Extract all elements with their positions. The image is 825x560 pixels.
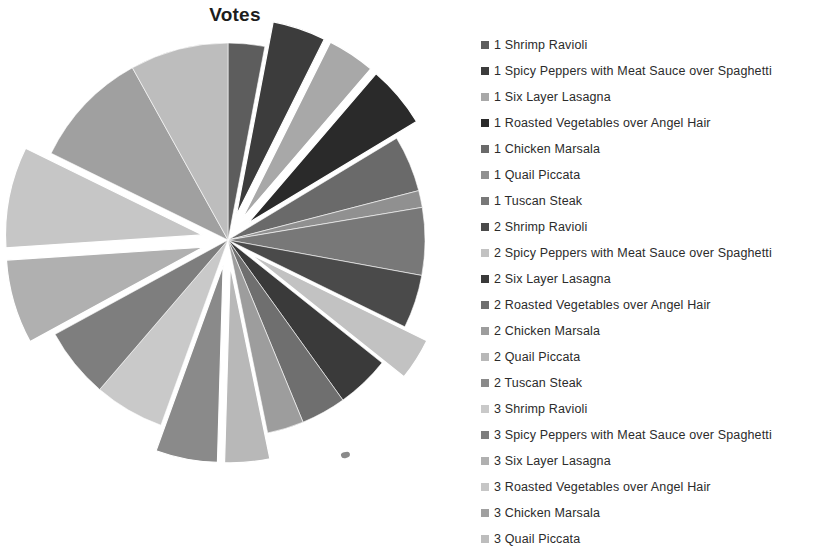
legend-item-label: 2 Tuscan Steak	[494, 370, 582, 396]
legend-swatch-icon	[481, 93, 489, 101]
legend-item[interactable]: 2 Quail Piccata	[481, 344, 825, 370]
legend-item-label: 3 Spicy Peppers with Meat Sauce over Spa…	[494, 422, 772, 448]
legend-swatch-icon	[481, 171, 489, 179]
legend-item[interactable]: 1 Tuscan Steak	[481, 188, 825, 214]
legend-item-label: 1 Six Layer Lasagna	[494, 84, 611, 110]
legend-swatch-icon	[481, 67, 489, 75]
legend-item-label: 1 Tuscan Steak	[494, 188, 582, 214]
legend-item[interactable]: 2 Tuscan Steak	[481, 370, 825, 396]
legend-item[interactable]: 1 Quail Piccata	[481, 162, 825, 188]
pie-slice-group	[5, 22, 426, 463]
chart-legend: 1 Shrimp Ravioli1 Spicy Peppers with Mea…	[481, 32, 825, 552]
legend-item-label: 2 Roasted Vegetables over Angel Hair	[494, 292, 711, 318]
legend-swatch-icon	[481, 353, 489, 361]
legend-item-label: 2 Shrimp Ravioli	[494, 214, 587, 240]
legend-swatch-icon	[481, 535, 489, 543]
legend-item-label: 3 Chicken Marsala	[494, 500, 600, 526]
legend-item-label: 1 Roasted Vegetables over Angel Hair	[494, 110, 711, 136]
legend-item-label: 1 Spicy Peppers with Meat Sauce over Spa…	[494, 58, 772, 84]
legend-item[interactable]: 3 Quail Piccata	[481, 526, 825, 552]
legend-item[interactable]: 3 Chicken Marsala	[481, 500, 825, 526]
legend-item[interactable]: 3 Roasted Vegetables over Angel Hair	[481, 474, 825, 500]
legend-item[interactable]: 2 Chicken Marsala	[481, 318, 825, 344]
legend-swatch-icon	[481, 41, 489, 49]
legend-item-label: 1 Chicken Marsala	[494, 136, 600, 162]
legend-item[interactable]: 3 Spicy Peppers with Meat Sauce over Spa…	[481, 422, 825, 448]
legend-item-label: 3 Six Layer Lasagna	[494, 448, 611, 474]
legend-item[interactable]: 1 Chicken Marsala	[481, 136, 825, 162]
legend-swatch-icon	[481, 483, 489, 491]
legend-item-label: 3 Shrimp Ravioli	[494, 396, 587, 422]
legend-item-label: 2 Chicken Marsala	[494, 318, 600, 344]
legend-item-label: 1 Shrimp Ravioli	[494, 32, 587, 58]
legend-item[interactable]: 1 Spicy Peppers with Meat Sauce over Spa…	[481, 58, 825, 84]
legend-item[interactable]: 2 Shrimp Ravioli	[481, 214, 825, 240]
legend-item[interactable]: 2 Roasted Vegetables over Angel Hair	[481, 292, 825, 318]
legend-swatch-icon	[481, 379, 489, 387]
legend-item-label: 3 Quail Piccata	[494, 526, 580, 552]
legend-swatch-icon	[481, 327, 489, 335]
legend-swatch-icon	[481, 145, 489, 153]
legend-item[interactable]: 3 Shrimp Ravioli	[481, 396, 825, 422]
pie-chart-svg	[0, 18, 470, 488]
legend-swatch-icon	[481, 119, 489, 127]
legend-swatch-icon	[481, 301, 489, 309]
legend-swatch-icon	[481, 223, 489, 231]
legend-item-label: 1 Quail Piccata	[494, 162, 580, 188]
legend-item-label: 3 Roasted Vegetables over Angel Hair	[494, 474, 711, 500]
legend-item[interactable]: 1 Roasted Vegetables over Angel Hair	[481, 110, 825, 136]
pie-chart-plot-area	[0, 18, 470, 488]
chart-page: Votes 1 Shrimp Ravioli1 Spicy Peppers wi…	[0, 0, 825, 560]
legend-swatch-icon	[481, 509, 489, 517]
legend-item-label: 2 Quail Piccata	[494, 344, 580, 370]
legend-item[interactable]: 1 Six Layer Lasagna	[481, 84, 825, 110]
legend-swatch-icon	[481, 405, 489, 413]
legend-swatch-icon	[481, 275, 489, 283]
legend-item[interactable]: 3 Six Layer Lasagna	[481, 448, 825, 474]
legend-item[interactable]: 2 Spicy Peppers with Meat Sauce over Spa…	[481, 240, 825, 266]
legend-item-label: 2 Six Layer Lasagna	[494, 266, 611, 292]
legend-swatch-icon	[481, 197, 489, 205]
legend-item[interactable]: 1 Shrimp Ravioli	[481, 32, 825, 58]
legend-swatch-icon	[481, 431, 489, 439]
legend-swatch-icon	[481, 457, 489, 465]
legend-item-label: 2 Spicy Peppers with Meat Sauce over Spa…	[494, 240, 772, 266]
legend-swatch-icon	[481, 249, 489, 257]
legend-item[interactable]: 2 Six Layer Lasagna	[481, 266, 825, 292]
